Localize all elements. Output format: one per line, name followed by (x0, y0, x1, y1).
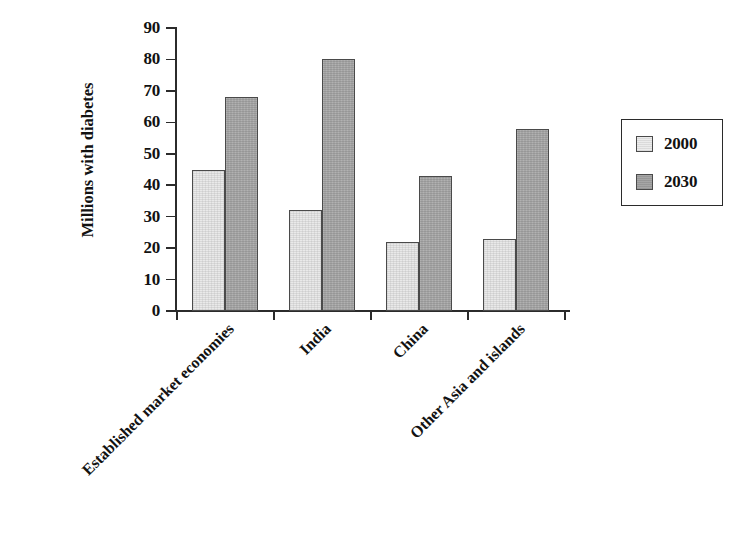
x-axis-separator-tick (564, 311, 566, 320)
y-axis-tick (166, 90, 175, 92)
y-axis-tick-label: 80 (0, 49, 160, 69)
x-axis-separator-tick (273, 311, 275, 320)
legend-swatch-2030-icon (636, 174, 653, 190)
bar-2030-1 (322, 59, 355, 311)
y-axis-tick (166, 247, 175, 249)
bar-2000-3 (483, 239, 516, 311)
y-axis-tick-label: 0 (0, 301, 160, 321)
y-axis-tick-label: 60 (0, 112, 160, 132)
x-axis-separator-tick (467, 311, 469, 320)
y-axis-tick-label: 10 (0, 270, 160, 290)
bar-2000-2 (386, 242, 419, 311)
legend-label-2030: 2030 (664, 172, 697, 192)
legend-item-2000: 2000 (636, 134, 697, 154)
y-axis-tick-label: 30 (0, 207, 160, 227)
bar-2030-2 (419, 176, 452, 311)
y-axis-tick (166, 153, 175, 155)
y-axis-tick (166, 216, 175, 218)
legend-label-2000: 2000 (664, 134, 697, 154)
y-axis-tick-label: 90 (0, 18, 160, 38)
y-axis-tick (166, 59, 175, 61)
y-axis-tick (166, 27, 175, 29)
y-axis-tick-label: 70 (0, 81, 160, 101)
x-axis-separator-tick (176, 311, 178, 320)
y-axis-tick (166, 184, 175, 186)
bar-2000-0 (192, 170, 225, 312)
bar-2030-3 (516, 129, 549, 311)
x-axis-category-label: Established market economies (78, 320, 237, 479)
y-axis-tick-label: 40 (0, 175, 160, 195)
y-axis-tick-label: 50 (0, 144, 160, 164)
y-axis-tick (166, 279, 175, 281)
x-axis-category-label: China (389, 320, 431, 362)
legend-swatch-2000-icon (636, 136, 653, 152)
legend-item-2030: 2030 (636, 172, 697, 192)
legend: 2000 2030 (621, 119, 723, 206)
y-axis-tick-label: 20 (0, 238, 160, 258)
x-axis-category-label: India (296, 320, 335, 359)
bar-2000-1 (289, 210, 322, 311)
y-axis-tick (166, 310, 175, 312)
x-axis-separator-tick (370, 311, 372, 320)
y-axis-tick (166, 122, 175, 124)
bar-2030-0 (225, 97, 258, 311)
bar-chart: Millions with diabetes 01020304050607080… (0, 0, 752, 558)
plot-area (176, 28, 564, 311)
